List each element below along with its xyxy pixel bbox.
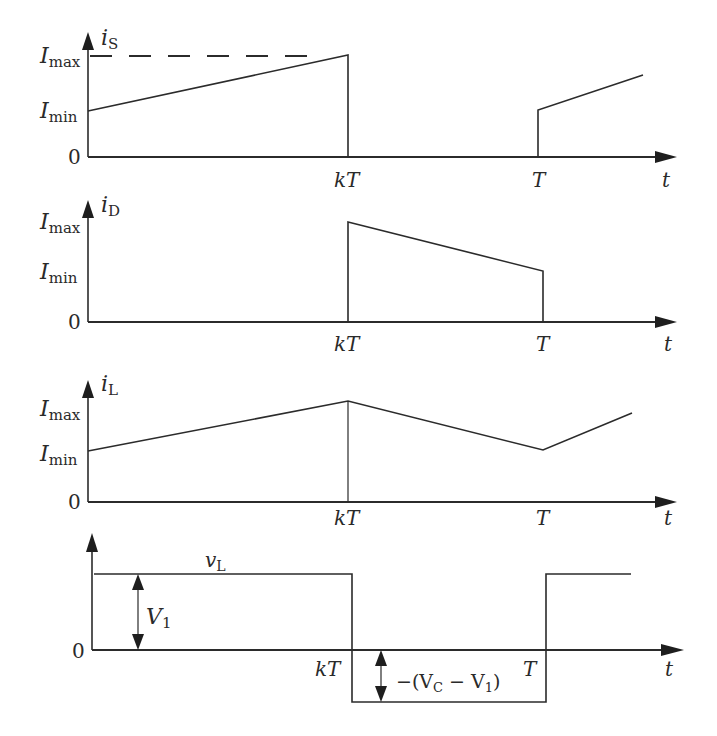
panel-id-labels: iD Imax Imin 0 kT T t — [39, 192, 673, 356]
is-kt-label: kT — [334, 168, 361, 192]
waveform-diagram: iS Imax Imin 0 kT T t iD Imax Imin 0 kT … — [0, 0, 717, 736]
il-kt-label: kT — [334, 506, 361, 530]
id-y-arrow-icon — [82, 200, 94, 218]
id-kt-label: kT — [334, 332, 361, 356]
is-imax-label: Imax — [39, 43, 81, 71]
panel-il — [82, 380, 677, 508]
vl-zero-label: 0 — [72, 639, 85, 663]
id-waveform — [348, 222, 543, 322]
neg-voltage-label: −(VC − V1) — [396, 670, 500, 695]
vl-y-arrow-icon — [86, 533, 98, 552]
il-imax-label: Imax — [39, 396, 81, 424]
is-signal-label: iS — [101, 25, 118, 53]
il-t-label: t — [664, 506, 673, 530]
panel-is-labels: iS Imax Imin 0 kT T t — [39, 25, 671, 192]
v1-down-arrow-icon — [132, 634, 144, 650]
vl-x-arrow-icon — [661, 644, 684, 656]
vl-kt-label: kT — [315, 657, 342, 681]
panel-id — [82, 200, 677, 328]
id-t-label: t — [664, 332, 673, 356]
panel-is — [82, 32, 677, 163]
is-T-label: T — [532, 168, 547, 192]
il-zero-label: 0 — [68, 490, 81, 514]
v1-label: V1 — [146, 604, 171, 632]
id-signal-label: iD — [101, 192, 120, 220]
is-y-arrow-icon — [82, 32, 94, 50]
vl-T-label: T — [523, 657, 538, 681]
is-x-arrow-icon — [655, 151, 677, 163]
v1-up-arrow-icon — [132, 574, 144, 590]
id-zero-label: 0 — [68, 310, 81, 334]
id-T-label: T — [536, 332, 551, 356]
vl-t-label: t — [665, 657, 674, 681]
il-imin-label: Imin — [39, 441, 78, 469]
il-y-arrow-icon — [82, 380, 94, 398]
panel-il-labels: iL Imax Imin 0 kT T t — [39, 371, 673, 530]
il-waveform — [88, 401, 632, 451]
is-waveform — [88, 55, 348, 157]
vl-signal-label: vL — [205, 548, 226, 574]
il-T-label: T — [536, 506, 551, 530]
il-signal-label: iL — [101, 371, 118, 399]
id-x-arrow-icon — [655, 316, 677, 328]
neg-down-arrow-icon — [375, 686, 387, 702]
is-waveform-after-T — [538, 75, 643, 157]
vl-waveform — [94, 574, 631, 702]
is-t-label: t — [662, 168, 671, 192]
panel-vl-labels: vL V1 0 kT T t −(VC − V1) — [72, 548, 674, 695]
id-imin-label: Imin — [39, 259, 78, 287]
panel-vl — [86, 533, 684, 702]
is-imin-label: Imin — [39, 98, 78, 126]
neg-up-arrow-icon — [375, 650, 387, 666]
is-zero-label: 0 — [68, 145, 81, 169]
id-imax-label: Imax — [39, 209, 81, 237]
